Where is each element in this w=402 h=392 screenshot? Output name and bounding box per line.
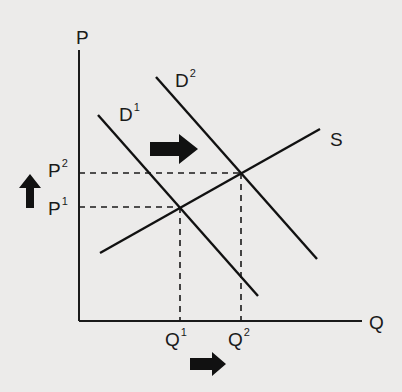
d1-label-sup: 1 [134, 101, 140, 113]
p1-label-sup: 1 [62, 195, 68, 207]
diagram-graphics [0, 0, 402, 392]
q2-label-sup: 2 [244, 326, 250, 338]
x-axis-label: Q [369, 313, 384, 332]
q2-label-name: Q [228, 329, 243, 350]
q1-label-name: Q [165, 329, 180, 350]
p2-label-name: P [48, 160, 61, 181]
d1-label: D1 [119, 105, 140, 124]
supply-curve-s [100, 129, 320, 253]
q1-label-sup: 1 [181, 326, 187, 338]
q1-label: Q1 [165, 330, 187, 349]
p2-label: P2 [48, 161, 68, 180]
p1-label-name: P [48, 198, 61, 219]
s-label: S [330, 130, 343, 149]
y-axis-label-text: P [76, 27, 89, 48]
q2-label: Q2 [228, 330, 250, 349]
p1-label: P1 [48, 199, 68, 218]
supply-demand-diagram: P Q D1 D2 S P2 P1 Q1 Q2 [0, 0, 402, 392]
d2-label-name: D [175, 70, 189, 91]
x-axis-label-text: Q [369, 312, 384, 333]
price-increase-arrow-icon [19, 174, 41, 208]
d2-label-sup: 2 [190, 67, 196, 79]
demand-shift-arrow-icon [150, 134, 198, 164]
guide-lines [79, 173, 241, 321]
quantity-increase-arrow-icon [190, 352, 226, 376]
d2-label: D2 [175, 71, 196, 90]
d1-label-name: D [119, 104, 133, 125]
p2-label-sup: 2 [62, 157, 68, 169]
y-axis-label: P [76, 28, 89, 47]
s-label-name: S [330, 129, 343, 150]
